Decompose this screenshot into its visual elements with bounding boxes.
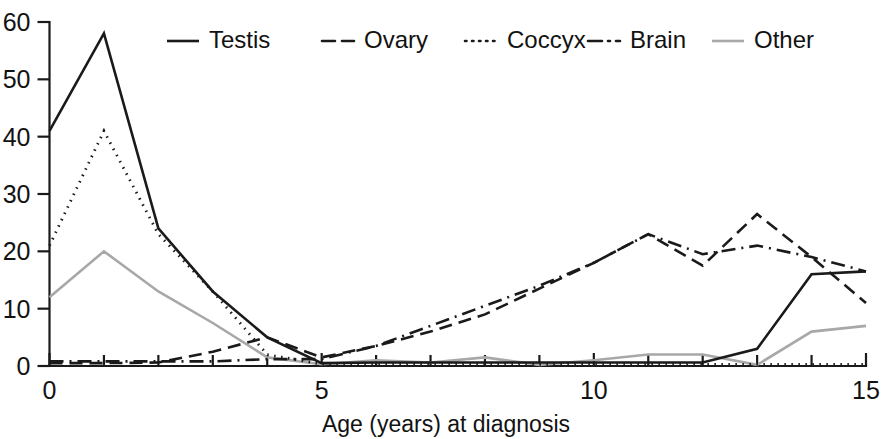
legend-item-other: Other [712, 26, 814, 53]
series-line-brain [50, 234, 867, 361]
chart-figure: 0102030405060 051015 TestisOvaryCoccyxBr… [0, 0, 893, 439]
legend-label-ovary: Ovary [364, 26, 428, 53]
legend-label-other: Other [754, 26, 814, 53]
legend-item-testis: Testis [167, 26, 270, 53]
y-tick-label: 50 [3, 65, 31, 93]
x-axis-title: Age (years) at diagnosis [322, 411, 570, 437]
legend-item-coccyx: Coccyx [465, 26, 586, 53]
x-tick-label: 10 [580, 376, 608, 404]
series-line-coccyx [50, 131, 867, 364]
y-tick-label: 40 [3, 123, 31, 151]
x-tick-label: 15 [852, 376, 880, 404]
x-tick-label: 0 [43, 376, 57, 404]
y-axis-ticks: 0102030405060 [3, 8, 50, 380]
legend-label-brain: Brain [630, 26, 686, 53]
y-tick-label: 20 [3, 237, 31, 265]
chart-legend: TestisOvaryCoccyxBrainOther [167, 26, 814, 53]
x-tick-label: 5 [315, 376, 329, 404]
legend-item-ovary: Ovary [322, 26, 428, 53]
data-series-layer [50, 33, 867, 364]
series-line-testis [50, 33, 867, 363]
legend-label-testis: Testis [209, 26, 270, 53]
y-tick-label: 60 [3, 8, 31, 36]
legend-label-coccyx: Coccyx [507, 26, 586, 53]
y-tick-label: 0 [17, 352, 31, 380]
legend-item-brain: Brain [588, 26, 686, 53]
y-tick-label: 10 [3, 295, 31, 323]
series-line-ovary [50, 214, 867, 363]
axis-layer [50, 22, 867, 366]
y-tick-label: 30 [3, 180, 31, 208]
series-line-other [50, 251, 867, 365]
line-chart-canvas: 0102030405060 051015 TestisOvaryCoccyxBr… [0, 0, 893, 439]
